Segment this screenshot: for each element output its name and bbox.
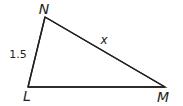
- triangle-lmn: [28, 17, 165, 87]
- vertex-label-l: L: [23, 88, 31, 104]
- side-nm: [45, 17, 165, 87]
- side-label-nm: x: [99, 33, 108, 47]
- triangle-diagram: N L M 1.5 x: [0, 0, 183, 106]
- vertex-label-m: M: [157, 89, 169, 105]
- vertex-label-n: N: [39, 1, 50, 17]
- side-label-ln: 1.5: [9, 48, 27, 61]
- side-ln: [28, 17, 45, 87]
